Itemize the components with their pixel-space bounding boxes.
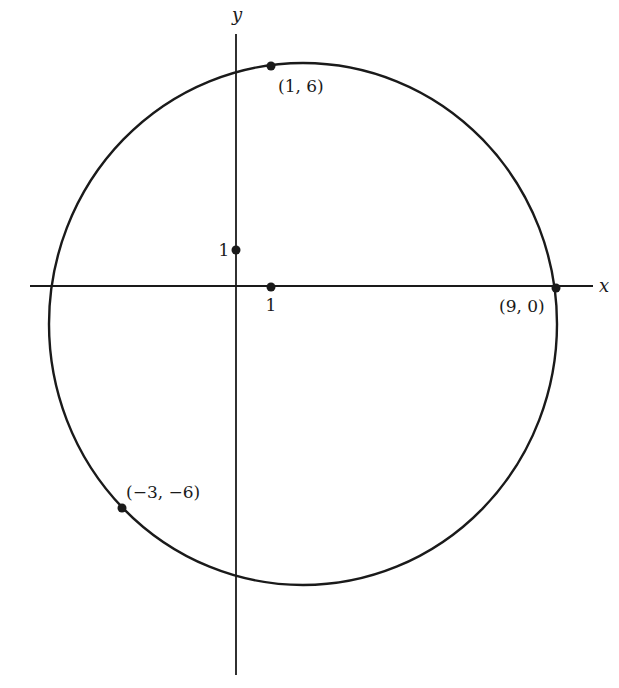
point-neg3-neg6-label: (−3, −6)	[126, 482, 200, 502]
tick-x1-label: 1	[266, 295, 277, 315]
tick-point-x1	[267, 283, 276, 292]
tick-y1-label: 1	[219, 240, 230, 260]
point-1-6-label: (1, 6)	[278, 76, 324, 96]
point-9-0-label: (9, 0)	[499, 296, 545, 316]
point-neg3-neg6	[118, 504, 127, 513]
y-axis-label: y	[231, 4, 243, 25]
circle-diagram: y x (1, 6) (9, 0) (−3, −6) 1 1	[0, 0, 619, 688]
point-9-0	[552, 284, 561, 293]
point-1-6	[267, 62, 276, 71]
x-axis-label: x	[599, 275, 609, 296]
tick-point-y1	[232, 246, 241, 255]
